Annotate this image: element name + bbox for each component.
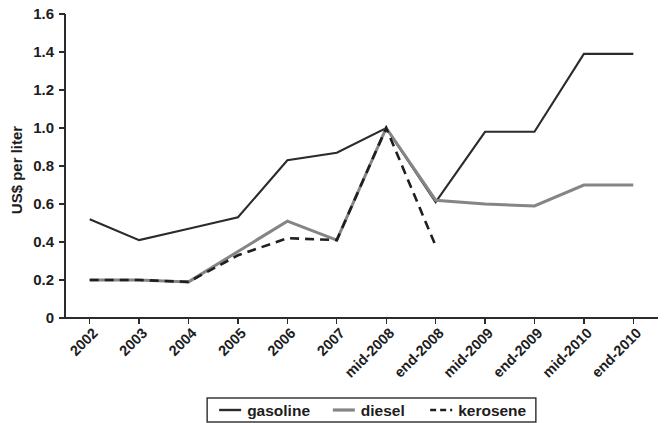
series-line-gasoline — [90, 54, 634, 240]
y-tick-label: 0 — [46, 309, 54, 326]
y-tick-label: 0.2 — [33, 271, 54, 288]
y-axis-ticks: 00.20.40.60.81.01.21.41.6 — [33, 5, 65, 326]
y-tick-label: 0.8 — [33, 157, 54, 174]
x-tick-label: end-2008 — [391, 325, 447, 381]
x-tick-label: end-2009 — [490, 325, 546, 381]
y-tick-label: 0.6 — [33, 195, 54, 212]
x-axis-ticks: 200220032004200520062007mid-2008end-2008… — [67, 318, 645, 381]
y-tick-label: 1.0 — [33, 119, 54, 136]
fuel-price-line-chart: US$ per liter 00.20.40.60.81.01.21.41.6 … — [0, 0, 664, 423]
y-tick-label: 1.6 — [33, 5, 54, 22]
x-tick-label: end-2010 — [589, 325, 645, 381]
x-tick-label: mid-2009 — [440, 325, 496, 381]
chart-canvas: US$ per liter 00.20.40.60.81.01.21.41.6 … — [0, 0, 664, 423]
y-tick-label: 1.4 — [33, 43, 55, 60]
series-line-diesel — [90, 128, 634, 282]
y-tick-label: 1.2 — [33, 81, 54, 98]
x-tick-label: 2002 — [67, 325, 101, 359]
x-tick-label: 2007 — [314, 325, 348, 359]
chart-legend: gasolinedieselkerosene — [207, 398, 536, 422]
y-axis-title-group: US$ per liter — [8, 126, 25, 215]
y-tick-label: 0.4 — [33, 233, 55, 250]
legend-label-kerosene: kerosene — [458, 402, 526, 419]
legend-label-gasoline: gasoline — [247, 402, 310, 419]
x-tick-label: mid-2008 — [342, 325, 398, 381]
legend-label-diesel: diesel — [361, 402, 405, 419]
x-tick-label: 2005 — [215, 325, 249, 359]
x-tick-label: 2003 — [116, 325, 150, 359]
x-tick-label: 2004 — [166, 325, 200, 359]
x-tick-label: mid-2010 — [539, 325, 595, 381]
series-line-kerosene — [90, 128, 436, 282]
data-series-group — [90, 54, 634, 282]
y-axis-title: US$ per liter — [8, 126, 25, 215]
x-tick-label: 2006 — [264, 325, 298, 359]
